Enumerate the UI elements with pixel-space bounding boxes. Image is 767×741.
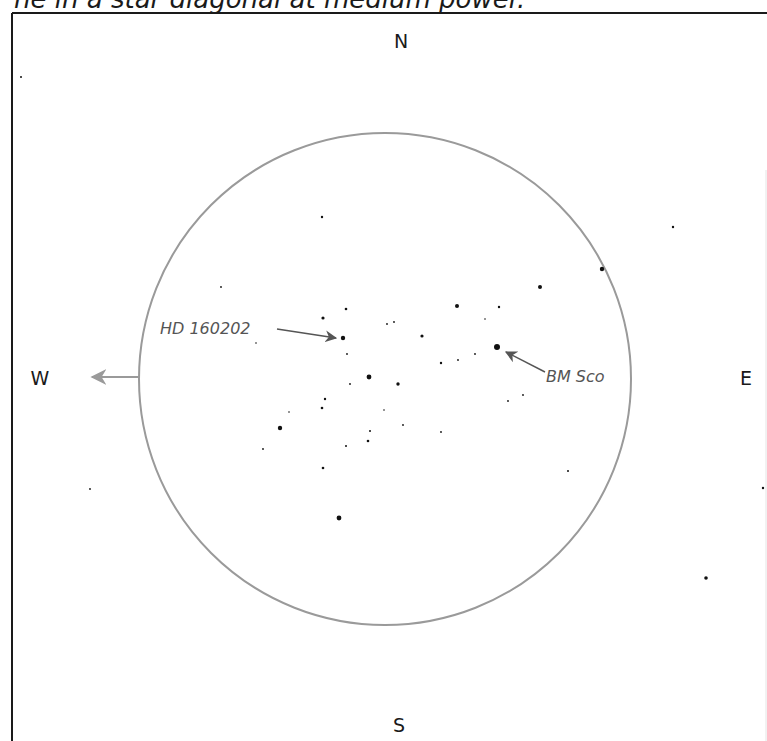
star	[494, 344, 500, 350]
label-bm-sco: BM Sco	[506, 352, 605, 386]
label-text-hd-160202: HD 160202	[160, 319, 251, 338]
star	[386, 323, 388, 325]
star	[762, 487, 764, 489]
star	[322, 467, 325, 470]
star	[262, 448, 264, 450]
compass-south: S	[393, 714, 405, 736]
compass-west: W	[31, 367, 50, 389]
star	[393, 321, 395, 323]
star	[345, 308, 348, 311]
star	[567, 470, 569, 472]
star	[278, 426, 282, 430]
star	[455, 304, 459, 308]
star	[522, 394, 524, 396]
star	[440, 362, 442, 364]
compass-east: E	[740, 367, 752, 389]
star	[89, 488, 91, 490]
star	[341, 336, 345, 340]
star	[600, 267, 604, 271]
label-text-bm-sco: BM Sco	[546, 367, 605, 386]
star	[507, 400, 509, 402]
star	[474, 353, 476, 355]
star	[321, 407, 324, 410]
star	[672, 226, 674, 228]
star	[484, 318, 486, 320]
star	[420, 334, 423, 337]
star	[255, 342, 257, 344]
star	[337, 516, 342, 521]
star	[367, 440, 370, 443]
star	[457, 359, 459, 361]
star	[288, 411, 290, 413]
star	[321, 216, 323, 218]
compass-north: N	[394, 30, 408, 52]
star	[321, 316, 324, 319]
pointer-arrow-hd-160202	[277, 329, 336, 338]
star	[538, 285, 542, 289]
star	[220, 286, 222, 288]
star	[367, 375, 372, 380]
star	[346, 353, 348, 355]
star	[704, 576, 708, 580]
star	[396, 382, 399, 385]
stars-group	[20, 76, 764, 580]
star	[498, 306, 500, 308]
star	[324, 398, 326, 400]
label-hd-160202: HD 160202	[160, 319, 336, 338]
pointer-arrow-bm-sco	[506, 352, 545, 372]
star	[402, 424, 404, 426]
star	[349, 383, 351, 385]
star	[369, 430, 371, 432]
star-chart: N S E W HD 160202 BM Sco	[0, 0, 767, 741]
star	[20, 76, 22, 78]
star	[440, 431, 442, 433]
star	[383, 409, 385, 411]
star	[345, 445, 347, 447]
